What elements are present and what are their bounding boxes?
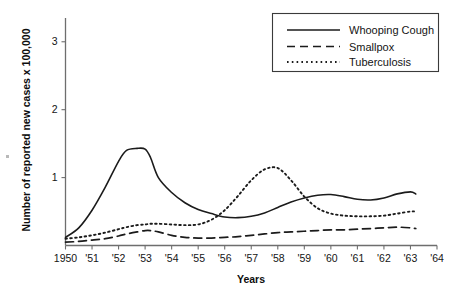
series-line-tuberculosis: [66, 167, 416, 239]
x-tick-label: '51: [85, 252, 99, 264]
x-axis-ticks: 1950'51'52'53'54'55'56'57'58'59'60'61'62…: [54, 246, 444, 264]
x-axis: 1950'51'52'53'54'55'56'57'58'59'60'61'62…: [54, 246, 444, 264]
legend-label-whooping-cough: Whooping Cough: [349, 24, 434, 36]
y-axis-ticks: 123: [52, 35, 66, 183]
x-tick-label: '54: [165, 252, 179, 264]
x-tick-label: '61: [351, 252, 365, 264]
y-tick-label: 2: [52, 103, 58, 115]
line-chart: 123 1950'51'52'53'54'55'56'57'58'59'60'6…: [0, 0, 452, 290]
data-series-group: [66, 148, 416, 242]
x-tick-label: '53: [138, 252, 152, 264]
x-axis-title: Years: [237, 273, 265, 285]
x-tick-label: '56: [218, 252, 232, 264]
x-tick-label: '57: [244, 252, 258, 264]
x-tick-label: '60: [324, 252, 338, 264]
x-tick-label: '55: [191, 252, 205, 264]
scan-artifact-mark: [6, 155, 9, 158]
x-tick-label: '58: [271, 252, 285, 264]
y-axis: 123: [52, 18, 66, 246]
x-tick-label: '52: [112, 252, 126, 264]
x-tick-label: '62: [377, 252, 391, 264]
y-tick-label: 3: [52, 35, 58, 47]
legend-label-tuberculosis: Tuberculosis: [349, 56, 411, 68]
chart-figure: 123 1950'51'52'53'54'55'56'57'58'59'60'6…: [0, 0, 452, 290]
x-tick-label: '63: [404, 252, 418, 264]
x-tick-label: '59: [297, 252, 311, 264]
x-tick-label: 1950: [54, 252, 78, 264]
legend-label-smallpox: Smallpox: [349, 41, 395, 53]
chart-legend: Whooping CoughSmallpoxTuberculosis: [273, 14, 439, 72]
y-axis-title: Number of reported new cases x 100,000: [20, 28, 32, 231]
y-tick-label: 1: [52, 171, 58, 183]
x-tick-label: '64: [430, 252, 444, 264]
